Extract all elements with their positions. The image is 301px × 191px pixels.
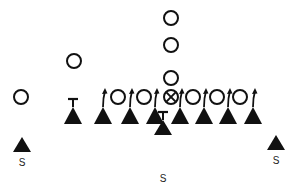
offense-player-circle-icon <box>210 90 224 104</box>
defender-triangle-icon <box>171 107 189 124</box>
defender-triangle-icon <box>219 107 237 124</box>
safety-triangle-icon <box>13 137 31 152</box>
safety-label-middle: S <box>160 174 167 184</box>
offense-player-circle-icon <box>164 71 178 85</box>
offense-player-circle-icon <box>14 90 28 104</box>
offense-player-circle-icon <box>111 90 125 104</box>
arrowhead-icon <box>252 88 258 94</box>
offense-player-circle-icon <box>67 54 81 68</box>
offense-player-circle-icon <box>137 90 151 104</box>
safety-triangle-icon <box>267 135 285 150</box>
defender-triangle-icon <box>244 107 262 124</box>
arrowhead-icon <box>102 88 108 94</box>
arrowhead-icon <box>227 88 233 94</box>
arrowhead-icon <box>203 88 209 94</box>
arrowhead-icon <box>154 88 160 94</box>
arrowhead-icon <box>179 88 185 94</box>
arrowhead-icon <box>129 88 135 94</box>
offense-player-circle-icon <box>164 38 178 52</box>
defender-triangle-icon <box>94 107 112 124</box>
offense-player-circle-icon <box>233 90 247 104</box>
offense-player-circle-icon <box>164 11 178 25</box>
play-diagram-canvas <box>0 0 301 191</box>
safety-label-right: S <box>273 156 280 166</box>
defender-triangle-icon <box>146 107 164 124</box>
play-diagram: S S S <box>0 0 301 191</box>
defender-triangle-icon <box>121 107 139 124</box>
defender-triangle-icon <box>195 107 213 124</box>
offense-player-circle-icon <box>186 90 200 104</box>
defender-triangle-icon <box>64 107 82 124</box>
safety-label-left: S <box>19 158 26 168</box>
